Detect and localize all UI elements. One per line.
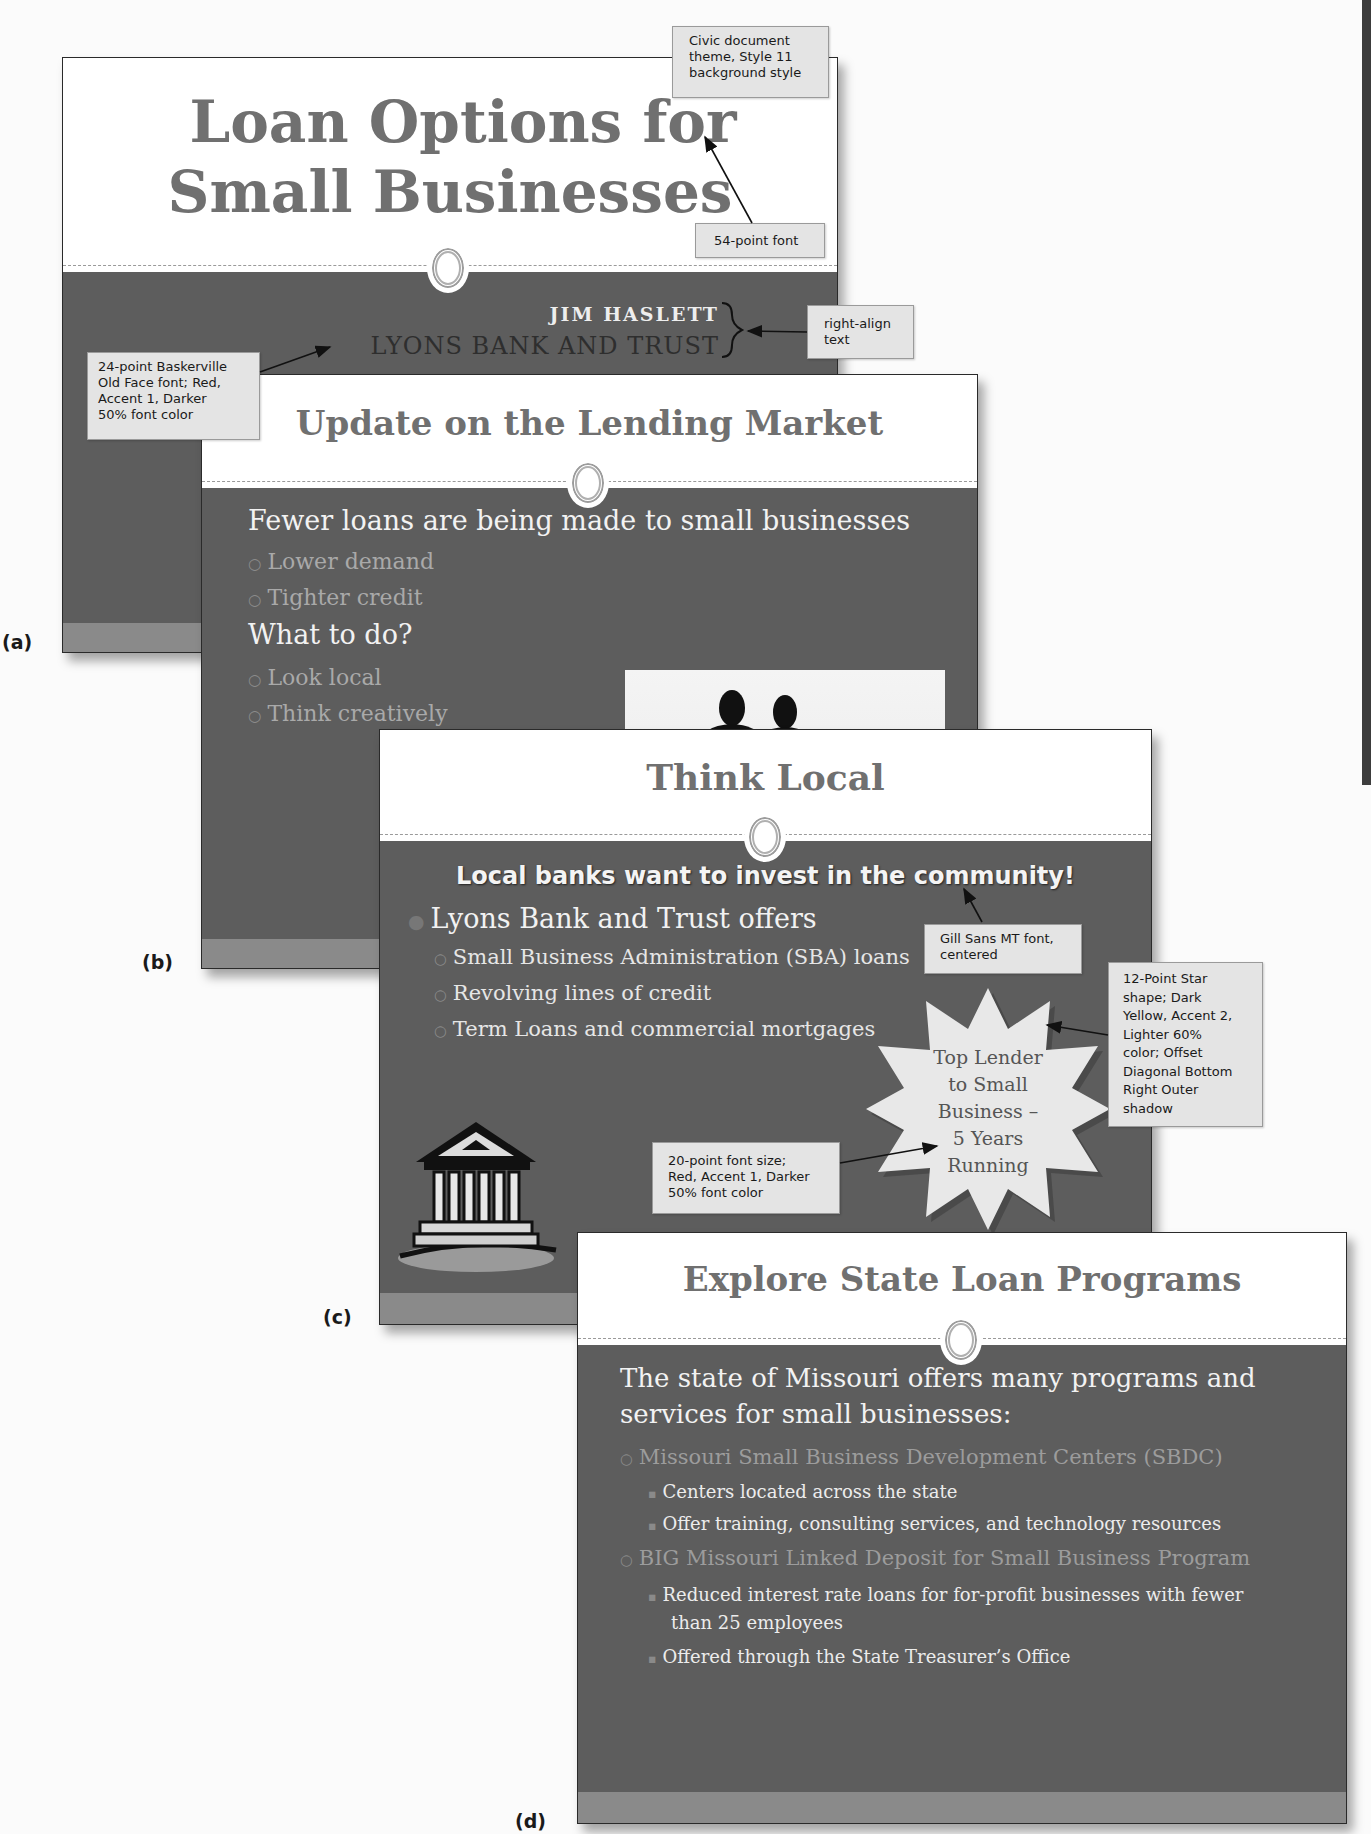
figure-label-b: (b): [142, 951, 173, 973]
circle-bullet-icon: ○: [620, 1551, 633, 1568]
bullet-level1: What to do?: [248, 619, 412, 650]
header-ring-ornament: [568, 459, 608, 507]
bullet-level3: ▪Offered through the State Treasurer’s O…: [648, 1646, 1070, 1667]
bullet-level1: ●Lyons Bank and Trust offers: [408, 903, 817, 934]
figure-label-d: (d): [515, 1810, 546, 1832]
bullet-level2: ○Tighter credit: [248, 585, 423, 610]
bullet-level2: ○Small Business Administration (SBA) loa…: [434, 945, 910, 969]
bullet-icon: ●: [408, 910, 424, 932]
bullet-level2: ○Think creatively: [248, 701, 448, 726]
bullet-level2: ○Term Loans and commercial mortgages: [434, 1017, 875, 1041]
bank-building-icon: [396, 1118, 560, 1278]
circle-bullet-icon: ○: [434, 1022, 447, 1039]
circle-bullet-icon: ○: [248, 671, 261, 689]
presenter-name: JIM HASLETT: [550, 303, 719, 325]
circle-bullet-icon: ○: [248, 591, 261, 609]
slide-d-state-loan-programs: Explore State Loan Programs The state of…: [577, 1232, 1347, 1824]
callout-star-shape: 12-Point Star shape; Dark Yellow, Accent…: [1108, 962, 1263, 1127]
presenter-company: LYONS BANK AND TRUST: [371, 332, 719, 360]
slide-footer-strip: [578, 1792, 1346, 1823]
circle-bullet-icon: ○: [434, 950, 447, 967]
x-bullet-icon: ▪: [648, 1486, 657, 1501]
callout-20-point-font: 20-point font size; Red, Accent 1, Darke…: [652, 1142, 840, 1214]
x-bullet-icon: ▪: [648, 1589, 657, 1604]
star-text: Top Lender to Small Business – 5 Years R…: [860, 1044, 1116, 1179]
slide-title: Explore State Loan Programs: [578, 1259, 1346, 1299]
header-ring-ornament: [745, 813, 785, 861]
bullet-level3: ▪Offer training, consulting services, an…: [648, 1513, 1221, 1534]
intro-line2: services for small businesses:: [620, 1399, 1011, 1429]
header-ring-ornament: [428, 244, 468, 292]
bullet-level3: ▪Reduced interest rate loans for for-pro…: [648, 1584, 1243, 1605]
x-bullet-icon: ▪: [648, 1651, 657, 1666]
bullet-level2: ○Missouri Small Business Development Cen…: [620, 1445, 1223, 1469]
slide-title-line2: Small Businesses: [63, 158, 837, 226]
header-ring-ornament: [941, 1316, 981, 1364]
circle-bullet-icon: ○: [248, 707, 261, 725]
bullet-level3-continuation: than 25 employees: [671, 1612, 843, 1633]
figure-label-c: (c): [323, 1306, 352, 1328]
bullet-level3: ▪Centers located across the state: [648, 1481, 957, 1502]
bullet-level2: ○BIG Missouri Linked Deposit for Small B…: [620, 1546, 1250, 1570]
circle-bullet-icon: ○: [248, 555, 261, 573]
intro-line1: The state of Missouri offers many progra…: [620, 1363, 1256, 1393]
bullet-level2: ○Revolving lines of credit: [434, 981, 711, 1005]
callout-right-align: right-align text: [807, 305, 914, 359]
callout-theme: Civic document theme, Style 11 backgroun…: [672, 26, 829, 98]
page-edge-bar: [1362, 0, 1371, 785]
callout-gill-sans: Gill Sans MT font, centered: [924, 924, 1082, 974]
slide-title-line1: Loan Options for: [63, 88, 837, 156]
circle-bullet-icon: ○: [434, 986, 447, 1003]
bullet-level1: Fewer loans are being made to small busi…: [248, 505, 910, 536]
x-bullet-icon: ▪: [648, 1518, 657, 1533]
slide-title: Think Local: [380, 756, 1151, 798]
figure-label-a: (a): [2, 631, 32, 653]
callout-baskerville: 24-point Baskerville Old Face font; Red,…: [87, 352, 260, 440]
bullet-level2: ○Look local: [248, 665, 382, 690]
circle-bullet-icon: ○: [620, 1450, 633, 1467]
callout-54-point-font: 54-point font: [695, 223, 825, 258]
bullet-level2: ○Lower demand: [248, 549, 434, 574]
headline-centered: Local banks want to invest in the commun…: [380, 862, 1151, 890]
slide-title: Update on the Lending Market: [202, 403, 977, 443]
